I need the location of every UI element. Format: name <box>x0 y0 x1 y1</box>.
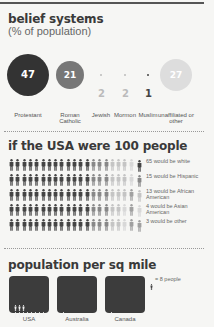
belief-value: 2 <box>122 88 129 99</box>
person-icon <box>97 172 102 184</box>
density-legend-label: = 8 people <box>155 276 181 282</box>
person-icon <box>104 202 109 214</box>
person-icon <box>53 217 58 229</box>
person-icon <box>34 304 37 310</box>
belief-dot <box>100 74 102 76</box>
person-icon <box>15 187 20 199</box>
legend-person-icon <box>137 188 142 200</box>
person-icon <box>129 202 134 214</box>
person-icon <box>22 202 27 214</box>
person-icon <box>53 187 58 199</box>
person-icon <box>85 187 90 199</box>
person-icon <box>116 187 121 199</box>
person-icon <box>14 297 17 303</box>
person-icon <box>72 172 77 184</box>
person-icon <box>30 304 33 310</box>
person-icon <box>78 157 83 169</box>
person-icon <box>9 157 14 169</box>
density-label: Australia <box>57 316 97 322</box>
person-icon <box>53 157 58 169</box>
person-icon <box>110 202 115 214</box>
legend-person-icon <box>137 203 142 215</box>
legend-person-icon <box>137 173 142 185</box>
people-title: if the USA were 100 people <box>8 139 187 153</box>
person-icon <box>66 157 71 169</box>
person-icon <box>47 172 52 184</box>
person-icon <box>122 217 127 229</box>
person-icon <box>15 157 20 169</box>
belief-value: 1 <box>145 88 152 99</box>
person-icon <box>66 187 71 199</box>
person-icon <box>15 172 20 184</box>
belief-value: 47 <box>21 69 35 80</box>
belief-value: 21 <box>64 70 77 80</box>
person-icon <box>104 157 109 169</box>
person-icon <box>129 157 134 169</box>
person-icon <box>38 304 41 310</box>
density-title: population per sq mile <box>8 258 156 272</box>
person-icon <box>47 202 52 214</box>
belief-label: unaffiliated or other <box>158 112 194 124</box>
density-label: USA <box>9 316 49 322</box>
person-icon <box>15 202 20 214</box>
person-icon <box>78 202 83 214</box>
person-icon <box>78 187 83 199</box>
person-icon <box>34 202 39 214</box>
legend-person-icon <box>137 218 142 230</box>
person-icon <box>110 187 115 199</box>
density-box <box>57 276 97 313</box>
legend-label: 15 would be Hispanic <box>146 173 206 179</box>
person-icon <box>9 172 14 184</box>
person-icon <box>72 202 77 214</box>
person-icon <box>53 172 58 184</box>
person-icon <box>122 157 127 169</box>
belief-bubble: 47 <box>7 54 50 97</box>
person-icon <box>9 202 14 214</box>
divider <box>4 131 204 132</box>
person-icon <box>62 304 65 310</box>
person-icon <box>72 157 77 169</box>
person-icon <box>41 187 46 199</box>
person-icon <box>66 172 71 184</box>
person-icon <box>122 187 127 199</box>
person-icon <box>97 202 102 214</box>
person-icon <box>34 217 39 229</box>
person-icon <box>110 172 115 184</box>
person-icon <box>28 187 33 199</box>
person-icon <box>129 217 134 229</box>
person-icon <box>59 202 64 214</box>
person-icon <box>78 172 83 184</box>
person-icon <box>110 157 115 169</box>
legend-person-icon <box>137 158 142 170</box>
person-icon <box>129 187 134 199</box>
person-icon <box>85 202 90 214</box>
density-box <box>105 276 145 313</box>
person-icon <box>41 172 46 184</box>
person-icon <box>116 172 121 184</box>
person-icon <box>22 187 27 199</box>
person-icon <box>41 217 46 229</box>
legend-label: 4 would be Asian American <box>146 203 206 215</box>
person-icon <box>97 157 102 169</box>
density-box <box>9 276 49 313</box>
person-icon <box>116 202 121 214</box>
person-icon <box>59 217 64 229</box>
legend-person-icon <box>150 276 153 282</box>
person-icon <box>104 217 109 229</box>
person-icon <box>18 297 21 303</box>
person-icon <box>9 217 14 229</box>
person-icon <box>28 217 33 229</box>
person-icon <box>22 297 25 303</box>
person-icon <box>122 202 127 214</box>
person-icon <box>85 217 90 229</box>
person-icon <box>97 217 102 229</box>
person-icon <box>110 217 115 229</box>
person-icon <box>34 172 39 184</box>
person-icon <box>91 187 96 199</box>
person-icon <box>41 202 46 214</box>
person-icon <box>22 217 27 229</box>
density-label: Canada <box>105 316 145 322</box>
person-icon <box>59 187 64 199</box>
divider <box>4 248 204 249</box>
belief-dot <box>147 74 149 76</box>
